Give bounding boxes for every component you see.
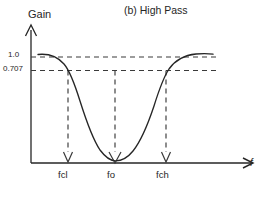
plot-canvas: [0, 0, 268, 199]
fo-drop-line: [109, 71, 121, 164]
x-tick-label-fcl: fcl: [58, 170, 68, 180]
chart-figure: (b) High Pass Gain f 1.0 0.707 fcl fo fc…: [0, 0, 268, 199]
x-axis-label: f: [250, 158, 253, 168]
x-axis: [31, 158, 253, 168]
fch-drop-line: [162, 71, 171, 163]
gain-response-curve: [38, 54, 213, 161]
fcl-drop-line: [64, 71, 73, 163]
x-tick-label-fch: fch: [156, 170, 169, 180]
y-axis: [26, 25, 37, 163]
x-tick-label-fo: fo: [107, 170, 115, 180]
chart-title: (b) High Pass: [124, 5, 188, 16]
y-tick-label-0.707: 0.707: [3, 65, 23, 73]
y-tick-label-1.0: 1.0: [8, 51, 19, 59]
y-axis-label: Gain: [28, 9, 51, 20]
